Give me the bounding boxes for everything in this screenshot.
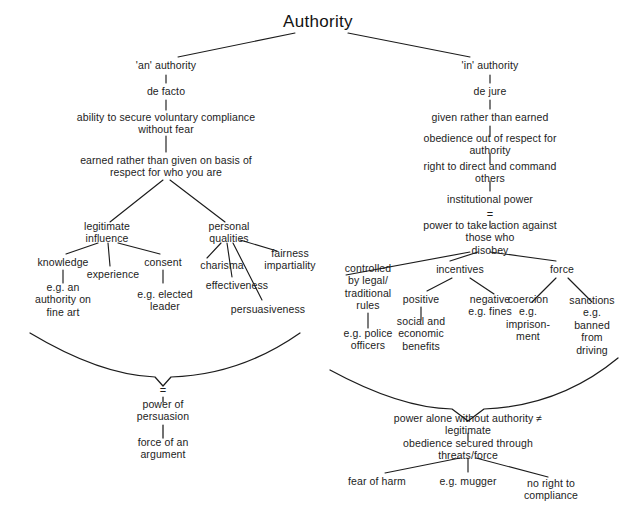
node-incentives: incentives <box>436 263 484 275</box>
node-force: force <box>550 263 574 275</box>
node-right_direct: right to direct and command others <box>418 160 563 185</box>
node-earned: earned rather than given on basis of res… <box>80 154 252 179</box>
node-power_pers: power of persuasion <box>137 398 189 423</box>
node-coercion: coercion e.g. imprison- ment <box>506 293 550 343</box>
node-obedience_resp: obedience out of respect for authority <box>418 132 563 157</box>
node-root: Authority <box>283 12 353 32</box>
node-given: given rather than earned <box>432 111 549 123</box>
edge-earned-to-legitimate <box>110 180 163 222</box>
node-consent: consent <box>144 256 181 268</box>
node-eg_elected: e.g. elected leader <box>137 288 193 313</box>
node-legitimate: legitimate influence <box>84 220 130 245</box>
node-social_econ: social and economic benefits <box>397 315 445 352</box>
node-de_jure: de jure <box>474 85 507 97</box>
node-eg_fine_art: e.g. an authority on fine art <box>35 281 91 318</box>
node-obedience_sec: obedience secured through threats/force <box>385 437 552 462</box>
node-inst_power: institutional power <box>447 193 533 205</box>
node-in_authority: 'in' authority <box>462 59 519 71</box>
node-eg_mugger: e.g. mugger <box>439 475 496 487</box>
node-fear_harm: fear of harm <box>348 475 406 487</box>
edge-legitimate-to-experience <box>108 243 110 266</box>
node-ability: ability to secure voluntary compliance w… <box>77 111 255 136</box>
node-sanctions: sanctions e.g. banned from driving <box>569 294 614 356</box>
node-effectiveness: effectiveness <box>206 279 268 291</box>
node-eg_police: e.g. police officers <box>344 327 393 352</box>
node-experience: experience <box>87 268 139 280</box>
node-no_right: no right to compliance <box>524 477 578 502</box>
edge-legitimate-to-knowledge <box>66 243 98 254</box>
node-personal: personal qualities <box>208 220 249 245</box>
edge-incentives-to-positive <box>427 278 452 291</box>
node-de_facto: de facto <box>147 85 185 97</box>
node-fairness: fairness impartiality <box>264 247 315 272</box>
edge-incentives-to-negative <box>470 278 494 294</box>
node-force_arg: force of an argument <box>138 436 189 461</box>
node-an_authority: 'an' authority <box>136 59 196 71</box>
node-persuasiveness: persuasiveness <box>231 303 305 315</box>
edge-personal-to-persuasiveness <box>233 243 262 300</box>
node-brace_left_eq: = <box>160 384 167 397</box>
edge-root-to-an_authority <box>178 33 295 57</box>
node-power_alone: power alone without authority ≠ legitima… <box>385 412 552 437</box>
node-power_action: power to take action against those who d… <box>418 219 563 256</box>
edge-root-to-in_authority <box>348 33 470 57</box>
edge-personal-to-charisma <box>207 243 221 258</box>
node-charisma: charisma <box>200 259 243 271</box>
concept-map-canvas: Authority'an' authorityde factoability t… <box>0 0 635 531</box>
edge-earned-to-personal <box>170 180 225 222</box>
node-knowledge: knowledge <box>37 256 88 268</box>
edge-legitimate-to-consent <box>118 243 160 254</box>
node-positive: positive <box>403 293 439 305</box>
left-summary-brace <box>30 333 300 386</box>
node-controlled: controlled by legal/ traditional rules <box>345 262 392 312</box>
